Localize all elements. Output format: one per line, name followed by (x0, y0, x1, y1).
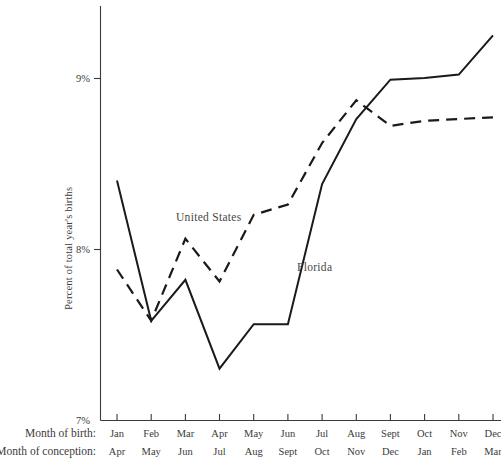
x-label-birth-may: May (244, 428, 264, 439)
x-label-birth-apr: Apr (211, 428, 228, 439)
y-axis-title: Percent of total year's births (63, 187, 74, 310)
x-label-conception-mar: Mar (484, 446, 501, 457)
birth-seasonality-line-chart: 9% 8% 7% Percent of total year's births … (0, 0, 501, 466)
x-label-birth-mar: Mar (177, 428, 195, 439)
x-label-birth-feb: Feb (143, 428, 159, 439)
x-label-birth-sept: Sept (381, 428, 400, 439)
x-label-conception-jul: Jul (213, 446, 225, 457)
series-annotation-florida: Florida (297, 261, 332, 273)
series-line-united-states (117, 100, 493, 321)
y-tick-label-8: 8% (76, 244, 90, 255)
y-axis-ticks (94, 79, 101, 250)
x-axis-labels-conception: AprMayJunJulAugSeptOctNovDecJanFebMar (109, 446, 501, 457)
x-label-conception-dec: Dec (382, 446, 399, 457)
x-label-conception-jan: Jan (418, 446, 433, 457)
x-label-conception-jun: Jun (178, 446, 193, 457)
series-annotation-united-states: United States (176, 211, 242, 223)
x-label-birth-aug: Aug (347, 428, 366, 439)
x-axis-ticks (117, 414, 493, 421)
x-label-conception-apr: Apr (109, 446, 126, 457)
x-label-conception-nov: Nov (347, 446, 366, 457)
x-label-birth-jul: Jul (316, 428, 328, 439)
x-label-conception-may: May (142, 446, 162, 457)
x-label-birth-jan: Jan (110, 428, 125, 439)
y-tick-label-7: 7% (76, 415, 90, 426)
x-label-conception-sept: Sept (279, 446, 298, 457)
x-axis-row-title-conception: Month of conception: (0, 445, 96, 458)
x-axis-row-title-birth: Month of birth: (25, 427, 96, 439)
x-axis-labels-birth: JanFebMarAprMayJunJulAugSeptOctNovDec (110, 428, 501, 439)
x-label-birth-nov: Nov (450, 428, 469, 439)
x-label-birth-jun: Jun (281, 428, 296, 439)
x-label-birth-oct: Oct (417, 428, 432, 439)
x-label-conception-oct: Oct (315, 446, 330, 457)
x-label-conception-feb: Feb (451, 446, 467, 457)
chart-canvas: 9% 8% 7% Percent of total year's births … (0, 0, 501, 466)
y-tick-label-9: 9% (76, 73, 90, 84)
series-line-florida (117, 35, 493, 368)
x-label-conception-aug: Aug (245, 446, 264, 457)
x-label-birth-dec: Dec (485, 428, 501, 439)
